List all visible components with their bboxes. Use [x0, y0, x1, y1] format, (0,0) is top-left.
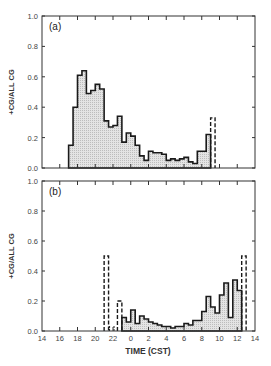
x-tick-label: 16: [56, 334, 64, 343]
y-tick-label: 0.4: [28, 267, 38, 276]
x-tick-label: 18: [73, 334, 81, 343]
dashed-bar: [104, 256, 108, 331]
x-axis-title: TIME (CST): [125, 346, 170, 356]
y-tick-label: 1.0: [28, 12, 38, 21]
y-tick-label: 0.8: [28, 42, 38, 51]
x-tick-label: 4: [164, 334, 168, 343]
y-tick-label: 1.0: [28, 177, 38, 186]
x-tick-label: 20: [91, 334, 99, 343]
x-tick-label: 22: [109, 334, 117, 343]
histogram-series: [69, 71, 211, 168]
panel-label: (a): [49, 21, 61, 32]
x-tick-label: 14: [38, 334, 46, 343]
y-tick-label: 0.2: [28, 297, 38, 306]
x-tick-label: 2: [146, 334, 150, 343]
chart-figure: 0.00.20.40.60.81.0(a)+CG/ALL CG 0.00.20.…: [0, 0, 271, 366]
y-tick-label: 0.0: [28, 327, 38, 336]
y-tick-label: 0.8: [28, 207, 38, 216]
y-tick-label: 0.6: [28, 237, 38, 246]
x-tick-label: 10: [215, 334, 223, 343]
x-tick-label: 6: [182, 334, 186, 343]
panel-b: 0.00.20.40.60.81.0141618202202468101214(…: [7, 177, 259, 343]
dashed-bar: [211, 118, 215, 168]
y-tick-label: 0.6: [28, 73, 38, 82]
y-tick-label: 0.4: [28, 103, 38, 112]
x-tick-label: 14: [251, 334, 259, 343]
y-axis-title: +CG/ALL CG: [7, 69, 16, 115]
x-tick-label: 0: [129, 334, 133, 343]
y-tick-label: 0.0: [28, 164, 38, 173]
panel-label: (b): [49, 186, 61, 197]
panel-a: 0.00.20.40.60.81.0(a)+CG/ALL CG: [7, 12, 255, 173]
histogram-series: [122, 280, 242, 331]
x-tick-label: 8: [200, 334, 204, 343]
y-axis-title: +CG/ALL CG: [7, 233, 16, 279]
y-tick-label: 0.2: [28, 134, 38, 143]
x-tick-label: 12: [233, 334, 241, 343]
